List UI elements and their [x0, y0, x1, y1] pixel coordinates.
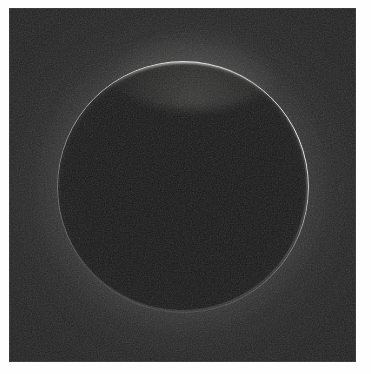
limb-peak-hotspot: [57, 61, 311, 315]
image-canvas: Backlit spherical body with bright atmos…: [0, 0, 371, 374]
photographic-plate: [9, 8, 356, 362]
image-caption: Backlit spherical body with bright atmos…: [0, 0, 1, 1]
